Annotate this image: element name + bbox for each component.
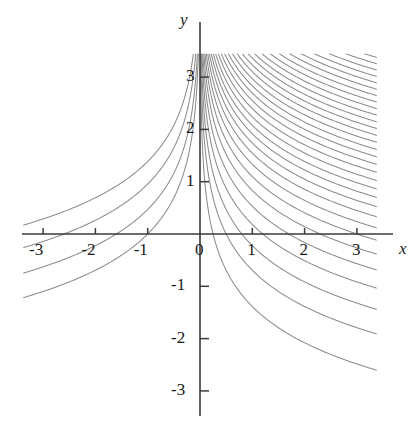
contour-line [14,54,193,228]
contour-line [364,54,384,60]
x-axis-label: x [399,239,407,259]
contour-line [225,54,387,160]
x-tick-label: -1 [134,240,148,260]
y-tick-label: -2 [171,328,185,348]
contour-line [14,54,198,301]
x-tick-label: 2 [300,240,309,260]
y-tick-label: 2 [186,118,195,138]
contour-line [213,54,386,192]
x-tick-label: 1 [247,240,256,260]
x-tick-label: 0 [195,240,204,260]
plot-canvas [0,0,419,435]
y-axis-label: y [180,10,188,30]
x-tick-label: -3 [29,240,43,260]
y-tick-label: 3 [186,66,195,86]
contour-line [345,54,386,67]
contour-line [206,54,385,231]
contour-plot-figure: -3-2-10123321-1-2-3 x y [0,0,419,435]
x-tick-label: 3 [352,240,361,260]
y-tick-label: -3 [171,380,185,400]
contour-line [204,54,385,257]
contour-line [14,54,195,251]
y-tick-label: 1 [186,171,195,191]
contour-line [289,54,384,92]
y-tick-label: -1 [171,275,185,295]
contour-line [262,54,387,112]
x-tick-label: -2 [81,240,95,260]
